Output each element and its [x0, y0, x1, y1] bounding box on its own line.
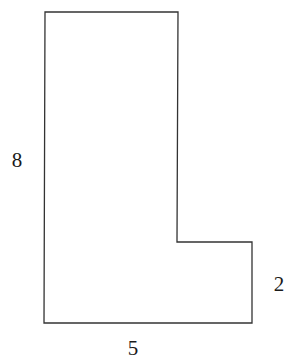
right-side-length-label: 2	[274, 274, 285, 295]
diagram-canvas	[0, 0, 305, 363]
bottom-side-length-label: 5	[128, 338, 139, 359]
l-shape-polygon	[44, 12, 252, 323]
left-side-length-label: 8	[12, 150, 23, 171]
